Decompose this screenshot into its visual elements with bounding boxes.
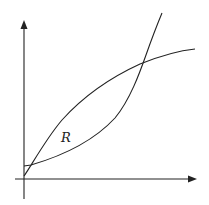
region-diagram: R (0, 0, 209, 205)
y-axis-arrow-icon (21, 20, 28, 29)
diagram-canvas: R (0, 0, 209, 205)
concave-curve (24, 49, 195, 176)
region-label: R (60, 130, 71, 145)
x-axis-arrow-icon (188, 176, 197, 183)
